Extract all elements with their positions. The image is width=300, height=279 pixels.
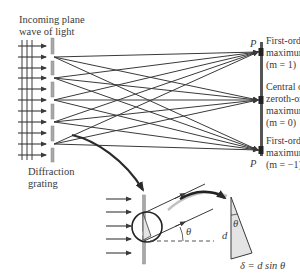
d-label: d: [222, 230, 227, 242]
point-p-bottom: P: [250, 158, 256, 170]
diffraction-grating: [51, 38, 54, 162]
path-difference-formula: δ = d sin θ: [240, 260, 285, 272]
incoming-wave-label: Incoming plane wave of light: [19, 14, 85, 38]
first-order-top-label: First-order maximum (m = 1): [266, 35, 300, 71]
theta-arc: [180, 227, 183, 241]
grating-label: Diffraction grating: [28, 166, 74, 190]
theta-label-detail: θ: [186, 226, 191, 238]
theta-label-triangle: θ: [233, 218, 238, 230]
detail-small-triangle: [143, 213, 151, 240]
detail-incoming-rays: [106, 199, 131, 253]
diffracted-rays: [54, 52, 258, 150]
central-max-label: Central or zeroth-order maximum (m = 0): [266, 81, 300, 129]
zoom-arrow: [72, 135, 143, 190]
first-order-bottom-label: First-order maximum (m = −1): [266, 135, 300, 171]
viewing-screen: [259, 42, 264, 156]
point-p-top: P: [250, 38, 256, 50]
